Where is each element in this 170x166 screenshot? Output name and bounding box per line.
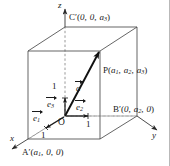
vector-e3-sub: 3: [51, 103, 54, 109]
point-c-y: 0: [90, 12, 95, 22]
point-a-prime-mark: ′: [29, 147, 31, 157]
vector-a-name: a: [76, 83, 81, 93]
axis-label-z: z: [58, 1, 62, 10]
unit-mark-z: 1: [52, 82, 57, 91]
vector-label-e2: e2: [76, 103, 83, 112]
point-c-z-sub: 3: [104, 16, 107, 22]
point-p-x-sub: 1: [116, 69, 119, 75]
axis-label-x: x: [10, 134, 14, 143]
point-a-y: 0: [46, 147, 51, 157]
vector-label-a: a: [76, 84, 81, 93]
point-b-x: 0: [124, 104, 129, 114]
axis-y-line: [137, 116, 157, 130]
point-label-c-prime: C′(0, 0, a3): [69, 13, 110, 22]
vector-e1-sub: 1: [37, 117, 40, 123]
box-top-face: [28, 27, 137, 51]
box-edge-bottom-right: [100, 116, 137, 139]
point-label-a-prime: A′(a1, 0, 0): [22, 148, 64, 157]
vector-diagram-figure: z y x C′(0, 0, a3) P(a1, a2, a3) B′(0, a…: [0, 0, 170, 166]
point-p-z-sub: 3: [141, 69, 144, 75]
diagram-canvas: [0, 0, 170, 166]
point-b-y-sub: 2: [138, 108, 141, 114]
point-b-z: 0: [147, 104, 152, 114]
point-p-name: P: [103, 65, 108, 75]
point-p-y-sub: 2: [128, 69, 131, 75]
origin-label: O: [58, 118, 65, 128]
point-a-z: 0: [56, 147, 61, 157]
point-c-prime-mark: ′: [75, 12, 77, 22]
axis-label-y: y: [152, 131, 156, 140]
point-b-prime-mark: ′: [119, 104, 121, 114]
point-a-x-sub: 1: [38, 151, 41, 157]
vector-e2-sub: 2: [80, 106, 83, 112]
unit-mark-y: 1: [86, 120, 91, 129]
point-c-x: 0: [80, 12, 85, 22]
point-label-p: P(a1, a2, a3): [103, 66, 147, 75]
point-label-b-prime: B′(0, a2, 0): [113, 105, 154, 114]
vector-label-e3: e3: [47, 100, 54, 109]
vector-label-e1: e1: [33, 114, 40, 123]
unit-mark-x: 1: [41, 131, 46, 140]
